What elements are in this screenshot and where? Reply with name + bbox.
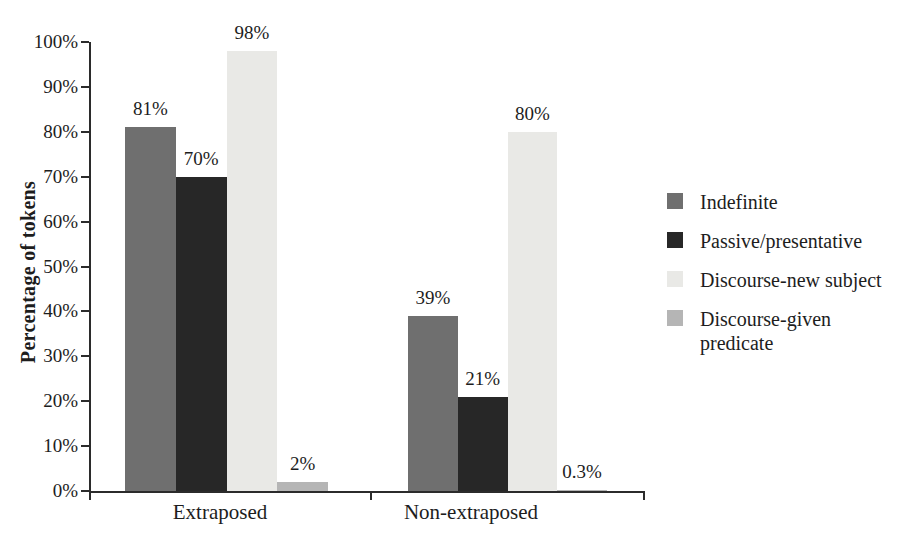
bar-cell: 2% bbox=[277, 42, 328, 491]
bar-cell: 39% bbox=[408, 42, 458, 491]
bar-cell: 70% bbox=[176, 42, 227, 491]
bar-value-label: 98% bbox=[234, 22, 269, 44]
bar-cell: 98% bbox=[227, 42, 278, 491]
y-tick-mark bbox=[81, 310, 89, 312]
y-tick: 0% bbox=[9, 481, 89, 501]
bar-value-label: 21% bbox=[465, 368, 500, 390]
x-tick bbox=[643, 491, 645, 500]
bar-value-label: 2% bbox=[290, 453, 315, 475]
bar-value-label: 0.3% bbox=[562, 461, 602, 483]
bar bbox=[176, 177, 227, 491]
y-tick-mark bbox=[81, 355, 89, 357]
legend: IndefinitePassive/presentativeDiscourse-… bbox=[667, 190, 887, 370]
bar-chart-figure: Percentage of tokens 0%10%20%30%40%50%60… bbox=[0, 0, 897, 544]
y-tick-mark bbox=[81, 445, 89, 447]
y-tick: 30% bbox=[9, 346, 89, 366]
y-tick: 50% bbox=[9, 257, 89, 277]
y-tick: 90% bbox=[9, 77, 89, 97]
y-tick-label: 100% bbox=[34, 31, 78, 53]
y-axis-line bbox=[89, 42, 91, 500]
y-tick-mark bbox=[81, 400, 89, 402]
bar bbox=[408, 316, 458, 491]
y-tick: 100% bbox=[9, 32, 89, 52]
plot-area: 0%10%20%30%40%50%60%70%80%90%100% 81%70%… bbox=[91, 42, 645, 491]
bar bbox=[508, 132, 558, 491]
x-tick bbox=[370, 491, 372, 500]
y-tick-label: 90% bbox=[43, 76, 78, 98]
bar-value-label: 80% bbox=[515, 103, 550, 125]
y-tick: 80% bbox=[9, 122, 89, 142]
y-tick-label: 70% bbox=[43, 166, 78, 188]
bar bbox=[277, 482, 328, 491]
legend-swatch bbox=[667, 310, 683, 326]
bar bbox=[557, 490, 607, 491]
legend-swatch bbox=[667, 232, 683, 248]
y-tick-mark bbox=[81, 221, 89, 223]
x-category-label: Non-extraposed bbox=[404, 500, 538, 525]
y-tick-label: 60% bbox=[43, 211, 78, 233]
legend-entry: Passive/presentative bbox=[667, 229, 887, 253]
bar-cell: 0.3% bbox=[557, 42, 607, 491]
bar bbox=[227, 51, 278, 491]
legend-label: Indefinite bbox=[700, 190, 887, 214]
bar bbox=[458, 397, 508, 491]
bar-value-label: 39% bbox=[415, 287, 450, 309]
legend-swatch bbox=[667, 193, 683, 209]
x-axis-line bbox=[89, 491, 645, 493]
y-tick-mark bbox=[81, 41, 89, 43]
bar-group: 39%21%80%0.3% bbox=[408, 42, 607, 491]
y-tick-label: 40% bbox=[43, 300, 78, 322]
bar-group: 81%70%98%2% bbox=[125, 42, 328, 491]
bar-value-label: 70% bbox=[184, 148, 219, 170]
legend-label: Passive/presentative bbox=[700, 229, 887, 253]
bar-value-label: 81% bbox=[133, 98, 168, 120]
y-tick-label: 30% bbox=[43, 345, 78, 367]
legend-entry: Discourse-new subject bbox=[667, 268, 887, 292]
x-category-label: Extraposed bbox=[173, 500, 267, 525]
bar-cell: 81% bbox=[125, 42, 176, 491]
y-tick: 10% bbox=[9, 436, 89, 456]
y-tick-label: 50% bbox=[43, 256, 78, 278]
y-tick-label: 0% bbox=[53, 480, 78, 502]
y-tick: 70% bbox=[9, 167, 89, 187]
y-tick: 60% bbox=[9, 212, 89, 232]
bar bbox=[125, 127, 176, 491]
legend-label: Discourse-given predicate bbox=[700, 307, 887, 355]
legend-label: Discourse-new subject bbox=[700, 268, 887, 292]
y-tick-label: 80% bbox=[43, 121, 78, 143]
y-tick-label: 20% bbox=[43, 390, 78, 412]
bar-cell: 21% bbox=[458, 42, 508, 491]
bar-cell: 80% bbox=[508, 42, 558, 491]
y-tick-mark bbox=[81, 490, 89, 492]
legend-entry: Indefinite bbox=[667, 190, 887, 214]
legend-swatch bbox=[667, 271, 683, 287]
y-tick-mark bbox=[81, 86, 89, 88]
y-tick-mark bbox=[81, 131, 89, 133]
y-tick-label: 10% bbox=[43, 435, 78, 457]
legend-entry: Discourse-given predicate bbox=[667, 307, 887, 355]
y-tick-mark bbox=[81, 266, 89, 268]
y-tick: 40% bbox=[9, 301, 89, 321]
y-tick: 20% bbox=[9, 391, 89, 411]
y-tick-mark bbox=[81, 176, 89, 178]
